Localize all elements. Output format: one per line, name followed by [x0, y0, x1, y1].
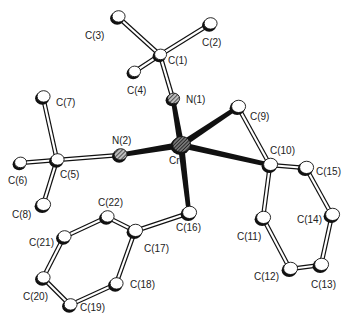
atom-label-c22: C(22): [98, 197, 123, 208]
atom-label-c15: C(15): [316, 166, 341, 177]
atom-c2: [202, 18, 217, 32]
atom-c13: [313, 258, 329, 273]
atom-label-c13: C(13): [311, 279, 336, 290]
atom-label-c11: C(11): [237, 231, 261, 242]
atom-label-c20: C(20): [23, 291, 48, 302]
atom-label-c18: C(18): [130, 279, 155, 290]
bond-c12-c11: [263, 218, 290, 269]
ortep-figure: C(3)C(2)C(1)C(4)N(1)C(7)C(5)C(6)C(8)N(2)…: [0, 0, 347, 322]
atom-c7: [35, 91, 50, 105]
bond-c5-n2: [57, 155, 120, 160]
atom-c5: [49, 154, 64, 168]
atom-c16: [181, 206, 197, 221]
molecular-structure-diagram: C(3)C(2)C(1)C(4)N(1)C(7)C(5)C(6)C(8)N(2)…: [0, 0, 347, 322]
atom-c12: [282, 262, 298, 277]
atom-c21: [56, 231, 71, 245]
atom-label-c2: C(2): [202, 37, 221, 48]
atom-c10: [262, 158, 278, 173]
atom-cr: [171, 136, 191, 154]
atom-label-c9: C(9): [250, 111, 269, 122]
bond-c1-c3: [118, 17, 160, 55]
atom-n2: [112, 149, 127, 163]
atom-label-c17: C(17): [144, 243, 169, 254]
atom-c18: [108, 278, 123, 292]
atom-n1: [166, 93, 180, 106]
atom-label-c5: C(5): [60, 169, 79, 180]
atom-label-c7: C(7): [56, 97, 75, 108]
atom-label-n1: N(1): [186, 94, 205, 105]
atom-label-cr: Cr: [169, 155, 180, 166]
atom-label-c6: C(6): [8, 175, 27, 186]
atom-c4: [127, 66, 141, 79]
atom-c8: [35, 198, 51, 213]
atom-c22: [99, 211, 114, 225]
bond-cr-c16: [178, 145, 191, 214]
atom-label-c1: C(1): [168, 55, 187, 66]
atom-c14: [324, 208, 340, 223]
atom-label-c3: C(3): [85, 30, 104, 41]
atom-label-c19: C(19): [80, 302, 105, 313]
atom-label-c10: C(10): [270, 145, 295, 156]
atom-label-n2: N(2): [112, 135, 131, 146]
bond-c18-c17: [116, 231, 135, 284]
atom-label-c12: C(12): [254, 271, 279, 282]
bond-c5-c7: [43, 97, 57, 160]
atom-label-c8: C(8): [12, 209, 31, 220]
atom-label-c14: C(14): [297, 214, 322, 225]
atom-c6: [13, 157, 27, 170]
atom-label-c4: C(4): [127, 85, 146, 96]
atom-label-c21: C(21): [29, 237, 54, 248]
atom-label-c16: C(16): [176, 222, 201, 233]
